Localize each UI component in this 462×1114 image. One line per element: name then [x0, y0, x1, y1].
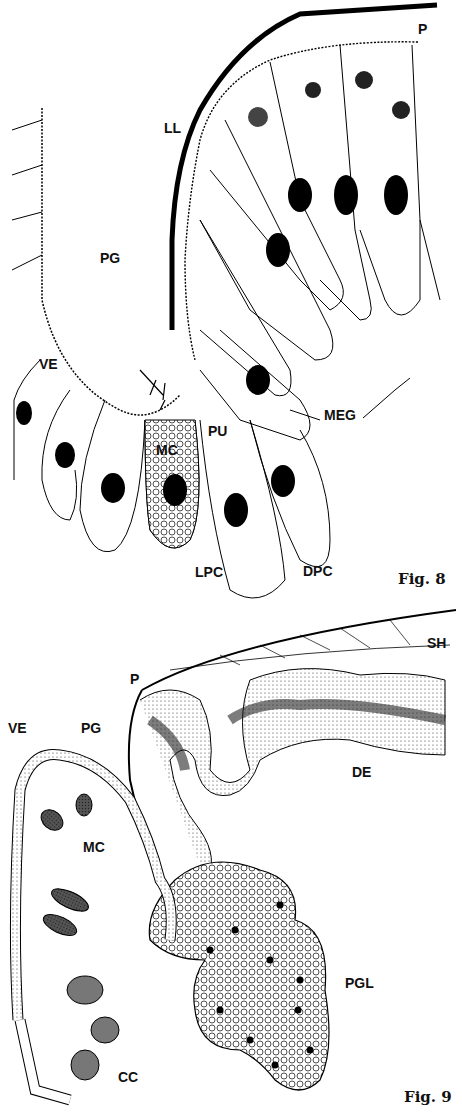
label-meg: MEG	[324, 408, 356, 422]
label-lpc: LPC	[195, 565, 223, 579]
label-p-fig9: P	[130, 672, 139, 686]
nuclei-fig8	[16, 71, 410, 527]
label-ll: LL	[164, 121, 181, 135]
label-pg-fig9: PG	[81, 721, 101, 735]
label-mc-fig8: MC	[156, 443, 178, 457]
figure-8-caption: Fig. 8	[398, 570, 446, 588]
fig8-drawing	[0, 0, 462, 1114]
figure-9-caption: Fig. 9	[404, 1088, 452, 1106]
label-pu: PU	[208, 424, 227, 438]
label-sh: SH	[427, 636, 446, 650]
ll-membrane	[172, 5, 437, 330]
label-cc: CC	[118, 1070, 138, 1084]
pgl-gland	[149, 862, 329, 1090]
label-p-fig8: P	[418, 22, 427, 36]
label-de: DE	[352, 765, 371, 779]
label-ve-fig9: VE	[8, 721, 27, 735]
label-mc-fig9: MC	[83, 840, 105, 854]
label-pgl: PGL	[345, 976, 374, 990]
label-ve-fig8: VE	[39, 357, 58, 371]
mc-club-cells	[37, 794, 92, 940]
cc-cells	[67, 976, 119, 1080]
label-pg-fig8: PG	[100, 251, 120, 265]
label-dpc: DPC	[303, 564, 333, 578]
